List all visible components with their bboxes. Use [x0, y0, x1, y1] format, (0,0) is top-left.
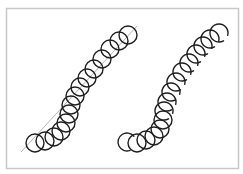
diagram-canvas: [0, 0, 243, 174]
